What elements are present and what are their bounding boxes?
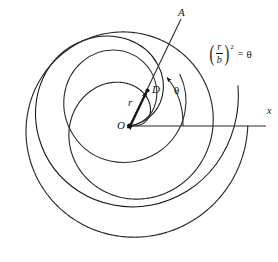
left-paren: ( (209, 42, 214, 65)
exponent: 2 (230, 43, 234, 51)
fraction-r-over-b: r b (216, 42, 223, 65)
spiral-equation: ( r b ) 2 = θ (208, 42, 252, 65)
point-D-dot (146, 89, 150, 93)
spiral-rendered (64, 50, 186, 162)
spiral-figure: A D r O θ x ( r b ) 2 = θ (0, 0, 278, 262)
right-paren: ) (224, 42, 229, 65)
label-A: A (178, 7, 185, 18)
label-origin: O (117, 120, 125, 131)
label-r: r (128, 97, 132, 108)
equals-sign: = (238, 48, 244, 59)
spiral-diagram-svg (0, 0, 278, 262)
label-x-axis: x (267, 106, 271, 116)
origin-dot (127, 124, 132, 129)
fraction-numerator: r (216, 42, 222, 53)
equation-theta: θ (246, 48, 251, 60)
label-D: D (152, 84, 160, 95)
fraction-denominator: b (216, 55, 223, 66)
label-theta: θ (174, 85, 179, 96)
spiral-turn-1 (64, 50, 186, 162)
